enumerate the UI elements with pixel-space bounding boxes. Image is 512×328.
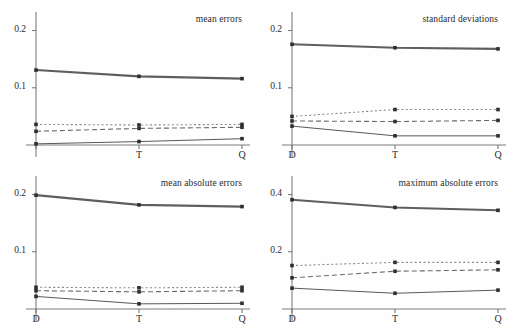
data-point-marker [240,301,244,305]
data-point-marker [34,295,38,299]
x-tick-label: D [284,313,300,324]
data-point-marker [393,291,397,295]
data-point-marker [34,68,38,72]
data-point-marker [137,290,141,294]
plot-svg-3 [256,164,512,328]
data-point-marker [290,276,294,280]
data-point-marker [393,134,397,138]
data-point-marker [34,123,38,127]
y-tick-label: 0.4 [256,188,282,198]
chart-panel-maximum-absolute-errors: maximum absolute errors 0.20.4DTQ [256,164,512,328]
y-tick-label: 0.2 [0,188,26,198]
data-point-marker [34,285,38,289]
panel-title-3: maximum absolute errors [399,178,498,188]
data-point-marker [137,302,141,306]
data-point-marker [290,286,294,290]
x-tick-label: Q [490,149,506,160]
data-point-marker [240,289,244,293]
panel-title-0: mean errors [196,14,242,24]
data-point-marker [290,43,294,47]
panel-plot-area-0 [0,0,256,164]
y-tick-label: 0.1 [0,81,26,91]
panel-plot-area-1 [256,0,512,164]
data-point-marker [137,140,141,144]
x-tick-label: D [28,313,44,324]
data-point-marker [240,285,244,289]
x-tick-label: T [131,149,147,160]
x-tick-label: T [387,149,403,160]
data-point-marker [496,268,500,272]
y-tick-label: 0.2 [256,245,282,255]
data-point-marker [290,115,294,119]
plot-svg-0 [0,0,256,164]
data-point-marker [240,77,244,81]
data-point-marker [393,120,397,124]
y-tick-label: 0.2 [0,24,26,34]
data-point-marker [137,127,141,131]
x-tick-label: T [131,313,147,324]
panel-title-1: standard deviations [422,14,498,24]
data-point-marker [34,193,38,197]
data-point-marker [496,134,500,138]
data-point-marker [393,269,397,273]
y-tick-label: 0.1 [256,81,282,91]
data-point-marker [496,261,500,265]
data-point-marker [137,123,141,127]
data-point-marker [290,124,294,128]
data-point-marker [34,142,38,146]
x-tick-label: T [387,313,403,324]
data-point-marker [137,286,141,290]
data-point-marker [137,75,141,79]
data-point-marker [240,125,244,129]
panel-title-2: mean absolute errors [161,178,242,188]
data-point-marker [290,264,294,268]
data-point-marker [393,46,397,50]
data-point-marker [496,209,500,213]
x-tick-label: D [284,149,300,160]
plot-svg-2 [0,164,256,328]
chart-panel-mean-errors: mean errors 0.10.2TQ [0,0,256,164]
data-point-marker [240,205,244,209]
x-tick-label: Q [234,313,250,324]
data-point-marker [393,206,397,210]
data-point-marker [496,288,500,292]
data-point-marker [496,108,500,112]
y-tick-label: 0.1 [0,245,26,255]
data-point-marker [34,289,38,293]
plot-svg-1 [256,0,512,164]
chart-panel-standard-deviations: standard deviations 0.10.2DTQ [256,0,512,164]
data-point-marker [496,47,500,51]
figure-canvas: mean errors 0.10.2TQ standard deviations… [0,0,512,328]
data-point-marker [393,261,397,265]
data-point-marker [496,119,500,123]
data-point-marker [290,119,294,123]
data-point-marker [240,137,244,141]
chart-panel-mean-absolute-errors: mean absolute errors 0.10.2DTQ [0,164,256,328]
data-point-marker [137,203,141,207]
data-point-marker [393,108,397,112]
data-point-marker [34,129,38,133]
x-tick-label: Q [490,313,506,324]
y-tick-label: 0.2 [256,24,282,34]
x-tick-label: Q [234,149,250,160]
data-point-marker [290,198,294,202]
panel-plot-area-3 [256,164,512,328]
panel-plot-area-2 [0,164,256,328]
